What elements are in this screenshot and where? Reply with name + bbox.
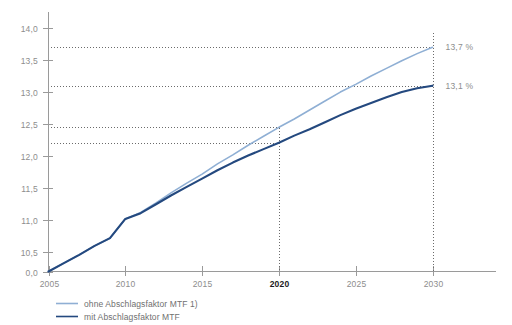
x-tick-label-2025: 2025	[347, 279, 367, 289]
y-tick-label-7: 13,5	[21, 56, 38, 66]
y-tick-label-3: 11,5	[21, 184, 38, 194]
end-label-lower: 13,1 %	[446, 81, 474, 91]
series-paths	[49, 47, 433, 271]
x-tick-label-2030: 2030	[424, 279, 444, 289]
line-chart: 0,010,511,011,512,012,513,013,514,0 2005…	[0, 0, 512, 325]
x-tick-label-2020: 2020	[270, 279, 290, 289]
y-tick-label-6: 13,0	[21, 88, 38, 98]
x-tick-label-2015: 2015	[193, 279, 213, 289]
y-tick-label-8: 14,0	[21, 24, 38, 34]
x-tick-labels: 200520102015202020252030	[40, 279, 444, 289]
y-tick-label-1: 10,5	[21, 248, 38, 258]
reference-lines	[51, 33, 434, 272]
chart-legend: ohne Abschlagsfaktor MTF 1) mit Abschlag…	[56, 299, 198, 322]
x-tick-label-2010: 2010	[116, 279, 136, 289]
series-line-1	[49, 86, 433, 272]
y-tick-labels: 0,010,511,011,512,012,513,013,514,0	[21, 24, 38, 278]
x-tick-label-2005: 2005	[40, 279, 60, 289]
end-value-labels: 13,7 %13,1 %	[446, 42, 474, 90]
y-tick-label-5: 12,5	[21, 120, 38, 130]
y-tick-label-4: 12,0	[21, 152, 38, 162]
chart-svg: 0,010,511,011,512,012,513,013,514,0 2005…	[0, 0, 512, 325]
legend-label-series-0: ohne Abschlagsfaktor MTF 1)	[84, 299, 198, 309]
legend-label-series-1: mit Abschlagsfaktor MTF	[84, 312, 180, 322]
y-tick-label-0: 0,0	[26, 268, 38, 278]
y-tick-label-2: 11,0	[21, 216, 38, 226]
end-label-upper: 13,7 %	[446, 42, 474, 52]
